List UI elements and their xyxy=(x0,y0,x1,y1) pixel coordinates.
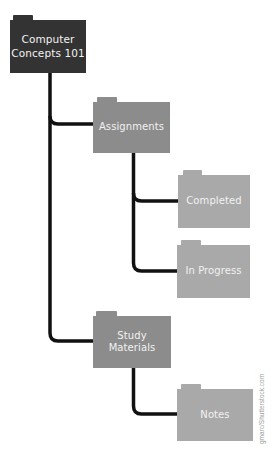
root-trunk-connector xyxy=(50,72,94,341)
folder-label: Computer Concepts 101 xyxy=(11,33,84,59)
folder-body: Study Materials xyxy=(93,316,171,368)
folder-completed[interactable]: Completed xyxy=(178,170,250,228)
image-credit: gmarc/Shutterstock.com xyxy=(258,374,265,444)
folder-body: Completed xyxy=(178,175,250,228)
folder-tree-diagram: Computer Concepts 101 Assignments Comple… xyxy=(0,0,275,457)
folder-label: Assignments xyxy=(99,121,164,134)
folder-body: Notes xyxy=(177,389,253,441)
folder-label-line2: Concepts 101 xyxy=(11,47,84,59)
folder-body: Assignments xyxy=(93,102,170,153)
assignments-to-completed-connector xyxy=(134,193,179,201)
folder-label: Notes xyxy=(200,409,229,422)
folder-body: Computer Concepts 101 xyxy=(10,20,86,73)
folder-study-materials[interactable]: Study Materials xyxy=(93,311,171,368)
folder-label-line1: Computer xyxy=(21,33,74,45)
assignments-trunk-connector xyxy=(134,153,179,271)
root-to-assignments-connector xyxy=(50,116,94,124)
folder-label: Study Materials xyxy=(109,330,156,355)
folder-label: In Progress xyxy=(185,265,241,278)
folder-computer-concepts-101[interactable]: Computer Concepts 101 xyxy=(10,15,86,73)
folder-in-progress[interactable]: In Progress xyxy=(177,240,250,298)
folder-label-line2: Materials xyxy=(109,342,156,353)
folder-assignments[interactable]: Assignments xyxy=(93,97,170,153)
folder-label-line1: Study xyxy=(117,330,146,341)
folder-label: Completed xyxy=(186,195,241,208)
folder-body: In Progress xyxy=(177,245,250,298)
study-to-notes-connector xyxy=(134,367,179,414)
folder-notes[interactable]: Notes xyxy=(177,384,253,441)
